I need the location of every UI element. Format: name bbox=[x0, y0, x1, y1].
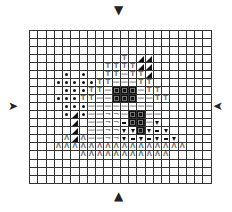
grid-cell: Λ bbox=[79, 142, 87, 150]
grid-cell bbox=[178, 175, 186, 183]
grid-cell bbox=[62, 118, 70, 126]
grid-cell bbox=[128, 94, 136, 102]
grid-cell: ¬ bbox=[103, 110, 111, 118]
grid-cell bbox=[79, 62, 87, 70]
grid-cell: — bbox=[95, 118, 103, 126]
black-corner-triangle-icon bbox=[137, 63, 144, 70]
grid-cell: T bbox=[128, 70, 136, 78]
grid-cell: Λ bbox=[62, 134, 70, 142]
grid-cell bbox=[95, 70, 103, 78]
tee-icon: T bbox=[137, 71, 144, 78]
grid-cell bbox=[70, 46, 78, 54]
grid-cell bbox=[95, 38, 103, 46]
grid-cell bbox=[70, 118, 78, 126]
filled-square-icon bbox=[113, 87, 120, 94]
grid-cell: Λ bbox=[120, 150, 128, 158]
grid-cell bbox=[194, 102, 202, 110]
dash-icon: — bbox=[96, 135, 103, 142]
grid-cell bbox=[29, 54, 37, 62]
grid-cell: — bbox=[95, 94, 103, 102]
grid-cell bbox=[202, 78, 210, 86]
black-corner-triangle-icon bbox=[71, 135, 78, 142]
grid-cell: — bbox=[112, 78, 120, 86]
grid-cell: T bbox=[136, 78, 144, 86]
dot-icon bbox=[71, 95, 78, 102]
dot-icon bbox=[80, 79, 87, 86]
grid-cell bbox=[29, 70, 37, 78]
filled-square-icon bbox=[129, 111, 136, 118]
grid-cell bbox=[37, 54, 45, 62]
grid-cell bbox=[29, 62, 37, 70]
grid-cell: — bbox=[145, 94, 153, 102]
black-corner-triangle-icon bbox=[137, 55, 144, 62]
grid-cell bbox=[169, 126, 177, 134]
black-corner-triangle-icon bbox=[146, 71, 153, 78]
grid-cell bbox=[37, 38, 45, 46]
grid-cell bbox=[169, 70, 177, 78]
grid-cell bbox=[29, 102, 37, 110]
grid-cell bbox=[169, 167, 177, 175]
grid-cell bbox=[112, 167, 120, 175]
grid-cell bbox=[202, 175, 210, 183]
grid-cell: — bbox=[103, 94, 111, 102]
dash-icon: — bbox=[121, 111, 128, 118]
grid-cell: — bbox=[136, 102, 144, 110]
grid-cell bbox=[46, 167, 54, 175]
grid-cell bbox=[54, 46, 62, 54]
grid-cell: Λ bbox=[62, 142, 70, 150]
grid-cell bbox=[161, 46, 169, 54]
down-triangle-icon bbox=[154, 135, 161, 142]
grid-cell bbox=[46, 159, 54, 167]
grid-cell bbox=[161, 110, 169, 118]
dash-icon: — bbox=[88, 103, 95, 110]
grid-cell bbox=[194, 86, 202, 94]
grid-cell bbox=[62, 175, 70, 183]
filled-square-icon bbox=[129, 87, 136, 94]
grid-cell bbox=[202, 94, 210, 102]
grid-cell: — bbox=[87, 134, 95, 142]
caret-icon: Λ bbox=[121, 143, 128, 150]
grid-cell: Λ bbox=[128, 150, 136, 158]
grid-cell bbox=[120, 30, 128, 38]
grid-cell bbox=[29, 46, 37, 54]
grid-cell bbox=[202, 54, 210, 62]
tee-icon: T bbox=[146, 79, 153, 86]
dash-icon: — bbox=[96, 119, 103, 126]
caret-icon: Λ bbox=[88, 143, 95, 150]
dot-icon bbox=[63, 95, 70, 102]
dot-icon bbox=[71, 79, 78, 86]
grid-cell bbox=[87, 70, 95, 78]
grid-cell: — bbox=[153, 110, 161, 118]
dash-icon: — bbox=[146, 95, 153, 102]
grid-cell bbox=[136, 62, 144, 70]
grid-cell bbox=[46, 126, 54, 134]
caret-icon: Λ bbox=[121, 151, 128, 158]
grid-cell bbox=[169, 159, 177, 167]
grid-cell: T bbox=[120, 62, 128, 70]
grid-cell bbox=[37, 94, 45, 102]
corner-icon: ¬ bbox=[104, 119, 111, 126]
center-arrow-right: ➤ bbox=[213, 100, 223, 112]
grid-cell: T bbox=[103, 70, 111, 78]
grid-cell bbox=[37, 134, 45, 142]
grid-cell: Λ bbox=[120, 142, 128, 150]
grid-cell: T bbox=[95, 78, 103, 86]
caret-icon: Λ bbox=[80, 135, 87, 142]
tee-icon: T bbox=[96, 79, 103, 86]
grid-cell bbox=[136, 30, 144, 38]
grid-cell bbox=[194, 46, 202, 54]
caret-icon: Λ bbox=[71, 143, 78, 150]
grid-cell bbox=[87, 175, 95, 183]
grid-cell bbox=[161, 175, 169, 183]
grid-cell bbox=[153, 30, 161, 38]
grid-cell: Λ bbox=[178, 142, 186, 150]
grid-cell bbox=[29, 118, 37, 126]
grid-cell bbox=[194, 175, 202, 183]
grid-cell: Λ bbox=[153, 142, 161, 150]
grid-cell bbox=[120, 38, 128, 46]
grid-cell bbox=[70, 30, 78, 38]
grid-cell bbox=[153, 126, 161, 134]
grid-cell: — bbox=[128, 78, 136, 86]
grid-cell bbox=[54, 94, 62, 102]
corner-icon: ¬ bbox=[113, 127, 120, 134]
